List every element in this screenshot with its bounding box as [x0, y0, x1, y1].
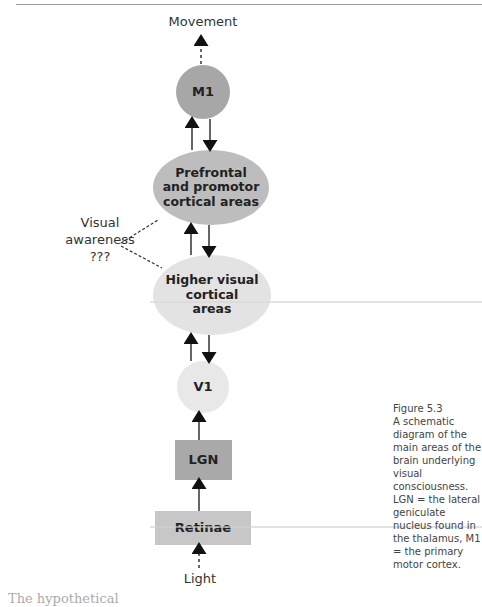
light-label: Light: [170, 571, 230, 586]
dashed-awareness-to-prefrontal: [121, 220, 158, 243]
dashed-awareness-to-higher: [121, 246, 162, 268]
caption-title: Figure 5.3: [393, 402, 482, 415]
caption-text: A schematic diagram of the main areas of…: [393, 415, 482, 571]
figure-caption: Figure 5.3 A schematic diagram of the ma…: [393, 402, 482, 571]
footer-partial-text: The hypothetical: [8, 591, 119, 606]
